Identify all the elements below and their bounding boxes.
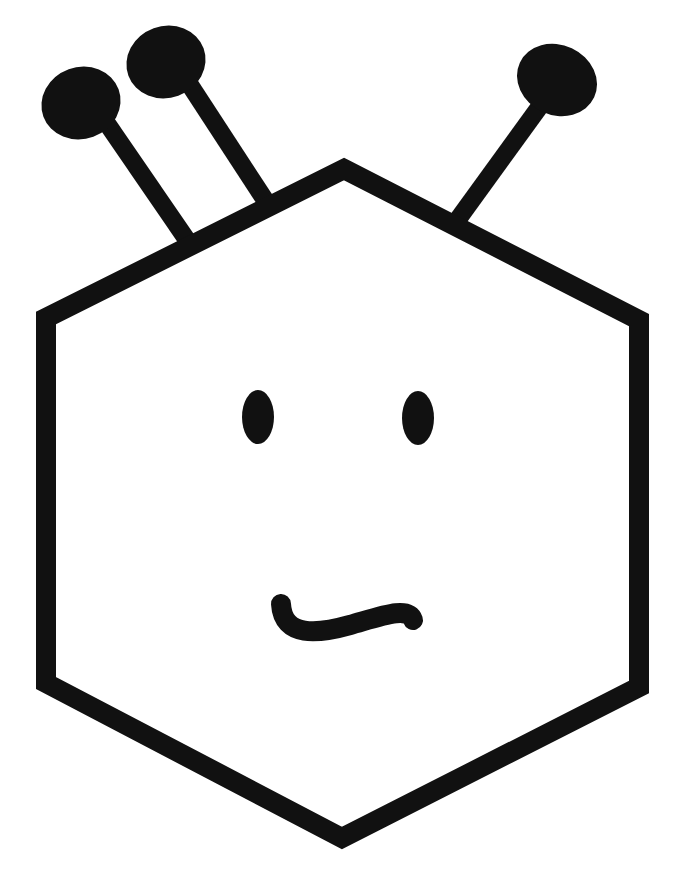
mouth-squiggle (281, 604, 413, 631)
antenna-stem (456, 102, 543, 222)
antennae-group (31, 14, 609, 240)
robot-face-drawing (0, 0, 680, 873)
antenna-stem (106, 122, 187, 240)
right-eye (402, 391, 434, 445)
antenna-right (456, 31, 609, 222)
left-eye (242, 390, 274, 444)
hexagon-head-outline (46, 169, 639, 838)
robot-face-illustration (0, 0, 680, 873)
eyes-group (242, 390, 434, 445)
antenna-ball-icon (505, 31, 609, 129)
antenna-stem (188, 82, 265, 200)
